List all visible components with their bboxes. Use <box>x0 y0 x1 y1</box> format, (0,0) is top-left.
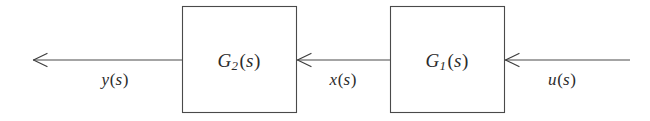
signal-label-x-arg: s <box>343 70 350 89</box>
block-label-g1-base: G <box>426 50 440 71</box>
block-label-g2-arg: s <box>246 50 253 71</box>
signal-label-y: y(s) <box>102 71 129 88</box>
block-label-g2-paren-close: ) <box>253 50 260 71</box>
signal-label-y-base: y <box>102 70 110 89</box>
signal-label-u-paren-close: ) <box>570 70 576 89</box>
block-label-g1-arg: s <box>454 50 461 71</box>
block-label-g2-base: G <box>218 50 232 71</box>
signal-label-x: x(s) <box>330 71 357 88</box>
block-label-g2-subscript: 2 <box>231 58 238 73</box>
signal-label-x-paren-close: ) <box>350 70 356 89</box>
signal-label-u-base: u <box>548 70 557 89</box>
block-diagram-figure: G2(s) G1(s) y(s) x(s) u(s) <box>0 0 650 121</box>
signal-label-y-paren-close: ) <box>122 70 128 89</box>
block-label-g1-subscript: 1 <box>439 58 446 73</box>
block-label-g2: G2(s) <box>218 51 261 70</box>
block-label-g1: G1(s) <box>426 51 469 70</box>
signal-label-x-base: x <box>330 70 338 89</box>
diagram-canvas <box>0 0 650 121</box>
signal-label-y-arg: s <box>115 70 122 89</box>
block-label-g1-paren-close: ) <box>461 50 468 71</box>
signal-label-u: u(s) <box>548 71 576 88</box>
